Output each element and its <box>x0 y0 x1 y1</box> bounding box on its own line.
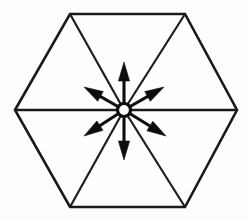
figure-container: Hexagon with radial arrows from center <box>0 0 248 219</box>
center-hub-ring <box>118 104 131 117</box>
hexagon-radial-diagram <box>0 0 248 219</box>
